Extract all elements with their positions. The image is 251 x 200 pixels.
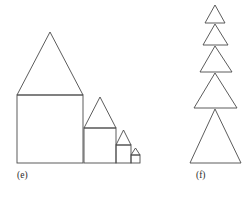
house-4-roof <box>131 148 140 155</box>
house-1-roof <box>17 32 83 95</box>
figure-panel: (e) (f) <box>0 0 251 200</box>
house-2-wall <box>84 128 116 163</box>
triangle-4 <box>194 73 237 108</box>
house-4-wall <box>131 155 140 163</box>
panel-f-triangles <box>190 5 241 163</box>
figure-canvas: (e) (f) <box>0 0 251 200</box>
triangle-2 <box>203 24 228 45</box>
house-2-roof <box>84 97 116 128</box>
panel-label-f: (f) <box>196 170 206 181</box>
house-1-wall <box>17 95 83 163</box>
panel-label-e: (e) <box>17 170 28 181</box>
house-3-roof <box>116 130 131 145</box>
triangle-1 <box>205 5 225 23</box>
panel-e-houses <box>17 32 140 163</box>
triangle-5 <box>190 109 241 163</box>
house-3-wall <box>116 145 131 163</box>
triangle-3 <box>200 46 232 72</box>
